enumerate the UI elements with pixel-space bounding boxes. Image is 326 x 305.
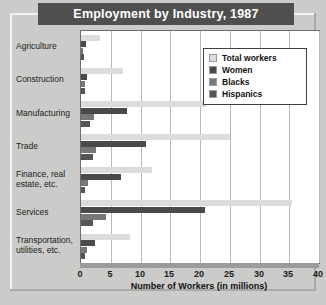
category-label: Transportation,utilities, etc. xyxy=(16,235,78,256)
legend-label: Total workers xyxy=(222,53,277,63)
x-tick-label: 5 xyxy=(98,269,122,279)
x-axis-title: Number of Workers (in millions) xyxy=(80,281,318,291)
category-label-line: estate, etc. xyxy=(16,179,78,190)
category-label: Manufacturing xyxy=(16,108,78,119)
legend-label: Women xyxy=(222,65,253,75)
category-label-line: Services xyxy=(16,207,78,218)
x-tick-label: 35 xyxy=(276,269,300,279)
category-label: Services xyxy=(16,207,78,218)
legend-item: Hispanics xyxy=(209,88,302,100)
category-label-line: utilities, etc. xyxy=(16,245,78,256)
legend-label: Blacks xyxy=(222,77,249,87)
category-label-line: Trade xyxy=(16,141,78,152)
category-label-line: Finance, real xyxy=(16,169,78,180)
category-label: Trade xyxy=(16,141,78,152)
x-axis-ticks: 0510152025303540 xyxy=(0,269,326,281)
x-tick-label: 15 xyxy=(157,269,181,279)
legend-item: Women xyxy=(209,64,302,76)
chart-legend: Total workersWomenBlacksHispanics xyxy=(203,48,307,105)
x-tick-label: 20 xyxy=(187,269,211,279)
category-label-line: Transportation, xyxy=(16,235,78,246)
x-tick-label: 0 xyxy=(68,269,92,279)
legend-label: Hispanics xyxy=(222,89,262,99)
x-tick-label: 30 xyxy=(247,269,271,279)
legend-swatch-icon xyxy=(209,66,217,74)
x-tick-label: 25 xyxy=(217,269,241,279)
x-tick-label: 40 xyxy=(306,269,326,279)
chart-figure: Employment by Industry, 1987 Agriculture… xyxy=(0,0,326,305)
category-label-line: Agriculture xyxy=(16,41,78,52)
legend-swatch-icon xyxy=(209,90,217,98)
category-label: Agriculture xyxy=(16,41,78,52)
category-label: Construction xyxy=(16,74,78,85)
category-label-line: Construction xyxy=(16,74,78,85)
legend-item: Blacks xyxy=(209,76,302,88)
category-label: Finance, realestate, etc. xyxy=(16,169,78,190)
legend-item: Total workers xyxy=(209,52,302,64)
chart-title: Employment by Industry, 1987 xyxy=(38,3,294,25)
legend-swatch-icon xyxy=(209,78,217,86)
legend-swatch-icon xyxy=(209,54,217,62)
x-axis-band xyxy=(80,263,319,268)
x-tick-label: 10 xyxy=(128,269,152,279)
category-label-line: Manufacturing xyxy=(16,108,78,119)
